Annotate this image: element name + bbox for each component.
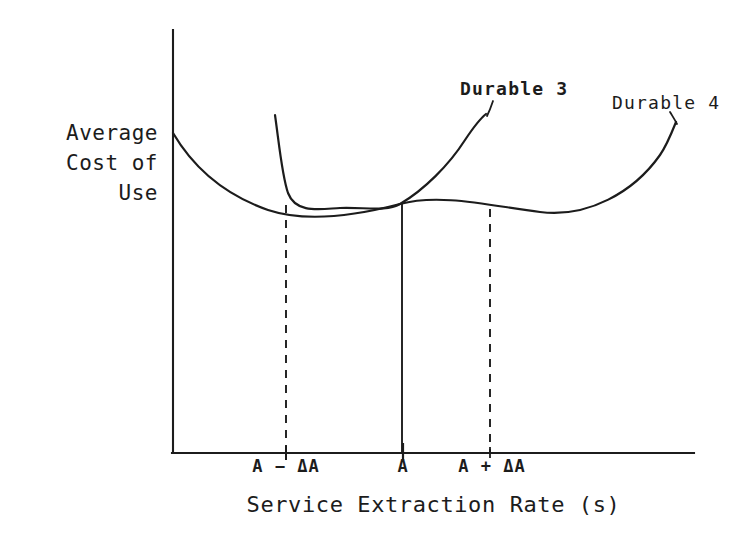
x-tick-label-a: A xyxy=(397,456,408,476)
drop-lines xyxy=(286,203,490,453)
leader-durable-3 xyxy=(487,101,493,116)
curve-durable-4 xyxy=(173,122,676,217)
x-axis-label: Service Extraction Rate (s) xyxy=(173,492,694,517)
y-axis-label-line-2: Cost of xyxy=(18,148,158,178)
y-axis-label-line-3: Use xyxy=(18,178,158,208)
leader-durable-4 xyxy=(670,112,677,124)
y-axis-label: Average Cost of Use xyxy=(18,118,158,208)
curve-label-durable-4: Durable 4 xyxy=(612,92,720,113)
y-axis-label-line-1: Average xyxy=(18,118,158,148)
curve-label-durable-3: Durable 3 xyxy=(460,78,568,99)
curve-durable-3 xyxy=(275,114,486,209)
x-tick-label-a-plus-delta: A + ΔA xyxy=(458,456,525,476)
x-tick-label-a-minus-delta: A − ΔA xyxy=(252,456,319,476)
chart-canvas xyxy=(0,0,754,541)
chart-figure: Average Cost of Use A − ΔA A A + ΔA Serv… xyxy=(0,0,754,541)
